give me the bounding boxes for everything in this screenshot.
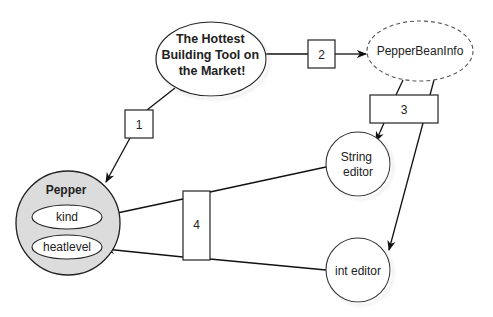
node-pepper-bean-info: PepperBeanInfo <box>367 21 473 81</box>
property-kind: kind <box>32 205 102 229</box>
pepper-title: Pepper <box>46 183 87 197</box>
svg-text:String editor: String editor <box>341 150 376 179</box>
node-int-editor: int editor <box>326 238 390 302</box>
property-heatlevel: heatlevel <box>32 235 102 259</box>
step-3-label: 3 <box>401 103 408 117</box>
hottest-line-1: The Hottest <box>176 32 246 46</box>
node-hottest-building-tool: The Hottest Building Tool on the Market! <box>156 22 266 96</box>
step-1-box: 1 <box>125 110 153 138</box>
step-1-label: 1 <box>136 118 143 132</box>
connector-string-editor-to-step4 <box>210 167 326 192</box>
step-4-label: 4 <box>193 218 200 232</box>
beaninfo-label: PepperBeanInfo <box>377 44 464 58</box>
hottest-line-3: the Market! <box>179 64 246 78</box>
connector-beaninfo-to-step3-b <box>430 80 434 95</box>
step-2-label: 2 <box>318 48 325 62</box>
node-pepper: Pepper kind heatlevel <box>16 171 120 275</box>
step-2-box: 2 <box>308 40 335 68</box>
step-3-box: 3 <box>370 95 438 123</box>
step-4-box: 4 <box>183 191 210 260</box>
int-editor-label: int editor <box>335 264 381 278</box>
connector-beaninfo-to-step3-a <box>396 80 403 95</box>
connector-hottest-to-step1 <box>147 88 175 110</box>
connector-int-editor-to-step4 <box>210 259 326 270</box>
node-string-editor: String editor <box>326 132 390 196</box>
diagram-canvas: The Hottest Building Tool on the Market!… <box>0 0 493 317</box>
string-editor-line-1: String <box>341 150 372 164</box>
connector-step4-to-heatlevel <box>105 249 183 257</box>
connector-step3-to-int-editor <box>389 123 423 250</box>
property-heatlevel-label: heatlevel <box>43 240 91 254</box>
connector-step1-to-pepper <box>106 138 130 182</box>
string-editor-line-2: editor <box>343 165 373 179</box>
hottest-line-2: Building Tool on <box>161 48 259 62</box>
property-kind-label: kind <box>56 210 78 224</box>
